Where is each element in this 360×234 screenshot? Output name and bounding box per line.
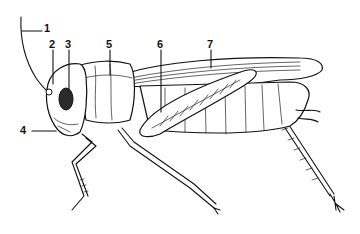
antenna-socket (46, 89, 52, 95)
front-leg (72, 134, 96, 210)
label-6: 6 (157, 38, 163, 50)
middle-leg (118, 128, 220, 214)
label-7: 7 (207, 38, 213, 50)
compound-eye (59, 88, 73, 110)
label-2: 2 (49, 38, 55, 50)
label-3: 3 (65, 38, 71, 50)
label-1: 1 (44, 22, 50, 34)
label-4: 4 (20, 124, 27, 136)
label-5: 5 (106, 38, 112, 50)
grasshopper-diagram: 1 2 3 4 5 6 7 (0, 0, 360, 234)
head (46, 64, 87, 136)
